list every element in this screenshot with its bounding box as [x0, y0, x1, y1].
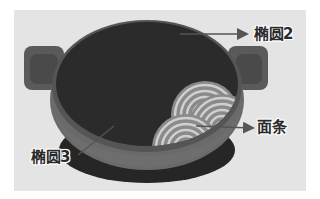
- label-ellipse2: 椭圆2: [254, 27, 293, 42]
- label-noodles: 面条: [257, 120, 286, 135]
- label-ellipse3: 椭圆3: [31, 150, 70, 165]
